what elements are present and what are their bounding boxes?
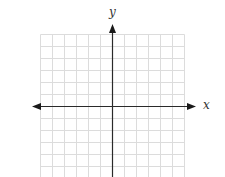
- x-axis-label: x: [203, 99, 210, 111]
- arrow-left-icon: [32, 103, 41, 110]
- arrow-up-icon: [109, 24, 116, 33]
- arrow-right-icon: [187, 103, 196, 110]
- y-axis-label: y: [109, 6, 116, 18]
- coordinate-plane: [0, 0, 225, 177]
